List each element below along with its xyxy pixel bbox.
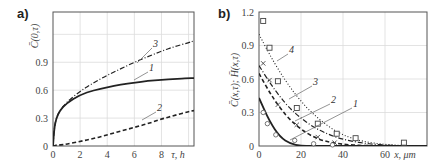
annotation-leader <box>142 112 156 120</box>
circle-marker <box>311 142 315 146</box>
x-tick-label: 20 <box>296 149 306 160</box>
annotation-leader <box>277 54 288 61</box>
chart-panel-b: 020406000.30.60.91.2x, μmC̄(x,τ); H̄(x,τ… <box>229 7 427 161</box>
x-tick-label: 4 <box>105 149 110 160</box>
y-tick-label: 0 <box>249 141 254 152</box>
annotation-leader <box>134 72 148 80</box>
y-tick-label: 0.9 <box>242 40 255 51</box>
data-markers <box>261 18 407 147</box>
square-marker <box>294 106 299 111</box>
circle-marker <box>274 133 278 137</box>
curve-label-4: 4 <box>289 44 294 55</box>
x-axis-label: τ, h <box>171 149 185 160</box>
y-tick-label: 0 <box>43 141 48 152</box>
cross-marker <box>276 102 280 106</box>
circle-marker <box>330 143 334 147</box>
square-marker <box>334 131 339 136</box>
y-tick-label: 1.2 <box>242 7 255 18</box>
y-tick-label: 0.6 <box>242 74 255 85</box>
square-marker <box>261 18 266 23</box>
curve-label-2: 2 <box>331 94 336 105</box>
x-tick-label: 60 <box>380 149 390 160</box>
y-tick-label: 0.3 <box>36 113 49 124</box>
x-tick-label: 2 <box>78 149 83 160</box>
x-tick-label: 0 <box>257 149 262 160</box>
x-tick-label: 0 <box>51 149 56 160</box>
x-tick-label: 8 <box>159 149 164 160</box>
figure: 0246800.30.60.9τ, hC̄(0,τ)123020406000.3… <box>0 0 447 168</box>
x-tick-label: 40 <box>338 149 348 160</box>
circle-marker <box>265 121 269 125</box>
y-axis-label: C̄(x,τ); H̄(x,τ) <box>229 52 241 107</box>
curve-label-3: 3 <box>152 38 158 49</box>
circle-marker <box>261 110 265 114</box>
curve-2 <box>53 111 194 146</box>
y-tick-label: 0.3 <box>242 107 255 118</box>
curve-label-3: 3 <box>312 76 318 87</box>
chart-panel-a: 0246800.30.60.9τ, hC̄(0,τ)123 <box>29 12 194 160</box>
square-marker <box>353 136 358 141</box>
square-marker <box>267 45 272 50</box>
circle-marker <box>293 138 297 142</box>
curve-label-1: 1 <box>353 98 358 109</box>
cross-marker <box>267 78 271 82</box>
square-marker <box>275 79 280 84</box>
curve-label-1: 1 <box>149 62 154 73</box>
curve-label-2: 2 <box>157 102 162 113</box>
annotation-leader <box>289 86 312 99</box>
curve-1 <box>53 78 194 146</box>
cross-marker <box>316 135 320 139</box>
x-tick-label: 6 <box>132 149 137 160</box>
square-marker <box>401 140 406 145</box>
y-tick-label: 0.6 <box>36 85 49 96</box>
y-tick-label: 0.9 <box>36 57 49 68</box>
cross-marker <box>261 61 265 65</box>
x-axis-label: x, μm <box>393 149 416 160</box>
y-axis-label: C̄(0,τ) <box>29 23 41 48</box>
